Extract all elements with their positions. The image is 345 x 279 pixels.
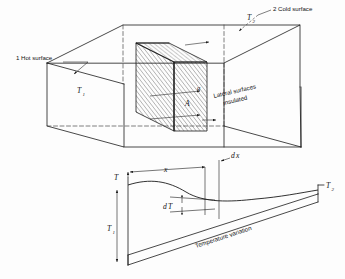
- heat-conduction-diagram: 1 Hot surface T 1 2 Cold surface T 2 A q…: [0, 0, 345, 279]
- delta-temperature-label: d: [163, 202, 167, 211]
- element-dx-label: d: [231, 151, 235, 160]
- distance-x-label: x: [163, 165, 168, 174]
- plot-cold-temperature-symbol: T: [326, 181, 331, 190]
- cold-temperature-subscript: 2: [253, 19, 256, 24]
- lateral-surfaces-annotation: Lateral surfaces insulated: [202, 82, 258, 120]
- element-dx-variable: x: [235, 151, 240, 160]
- delta-temperature-variable: T: [168, 202, 173, 211]
- area-symbol: A: [184, 99, 190, 108]
- plot-hot-temperature-subscript: 1: [113, 230, 116, 235]
- plot-hot-temperature-symbol: T: [107, 224, 112, 233]
- plot-cold-temperature-subscript: 2: [332, 187, 335, 192]
- temperature-variation-caption: Temperature variation: [194, 224, 252, 249]
- figure-container: 1 Hot surface T 1 2 Cold surface T 2 A q…: [0, 0, 345, 279]
- hot-temperature-subscript: 1: [83, 92, 86, 97]
- hot-surface-label: 1 Hot surface: [16, 54, 53, 61]
- cold-surface-annotation: [239, 10, 271, 31]
- temperature-plot: [117, 158, 324, 265]
- cold-surface-label: 2 Cold surface: [273, 5, 313, 12]
- hot-temperature-symbol: T: [77, 86, 82, 95]
- temperature-axis-label: T: [114, 173, 119, 182]
